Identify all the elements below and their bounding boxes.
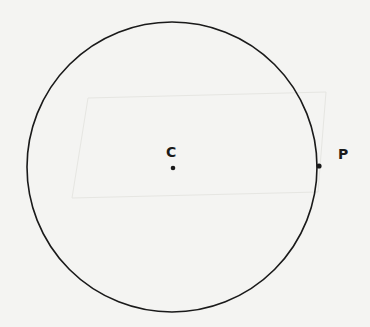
center-point-c (171, 166, 176, 171)
label-c: C (166, 145, 176, 159)
label-p: P (338, 147, 348, 161)
diagram-canvas: C P (0, 0, 370, 327)
point-p (316, 163, 321, 168)
diagram-svg (0, 0, 370, 327)
faint-bleedthrough-shape (72, 92, 326, 198)
